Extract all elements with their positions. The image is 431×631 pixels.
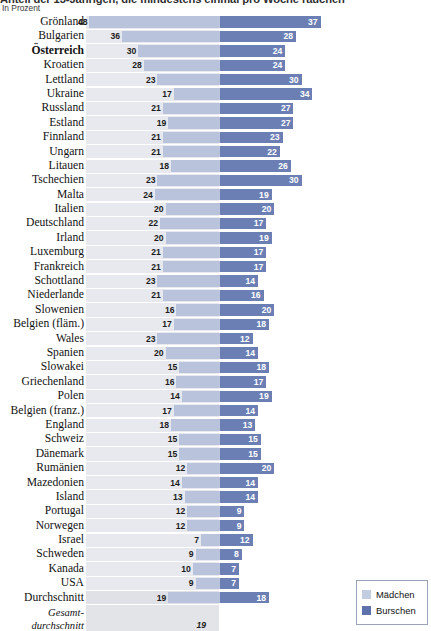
country-label: Ukraine — [0, 87, 84, 101]
value-maedchen: 14 — [168, 476, 180, 490]
chart-row: Niederlande2116 — [0, 288, 431, 302]
chart-row: Griechenland1617 — [0, 375, 431, 389]
bar-maedchen — [193, 563, 220, 574]
value-maedchen: 15 — [165, 432, 177, 446]
value-burschen: 16 — [249, 288, 261, 302]
value-maedchen: 16 — [162, 303, 174, 317]
chart-row: Norwegen129 — [0, 519, 431, 533]
chart-row: Kanada107 — [0, 562, 431, 576]
chart-row: Slowenien1620 — [0, 303, 431, 317]
value-burschen: 37 — [306, 15, 318, 29]
country-label: Kroatien — [0, 58, 84, 72]
country-label: Russland — [0, 101, 84, 115]
value-maedchen: 12 — [173, 461, 185, 475]
country-label: Spanien — [0, 346, 84, 360]
country-label: Schweden — [0, 547, 84, 561]
value-maedchen: 19 — [154, 591, 166, 605]
value-burschen: 14 — [243, 274, 255, 288]
bar-maedchen — [163, 247, 220, 258]
value-maedchen: 12 — [173, 519, 185, 533]
country-label: Niederlande — [0, 288, 84, 302]
chart-title: Anteil der 13-Jährigen, die mindestens e… — [0, 0, 431, 6]
country-label: Dänemark — [0, 447, 84, 461]
chart-row: Schweiz1515 — [0, 432, 431, 446]
value-burschen: 9 — [229, 519, 241, 533]
chart-row: Irland2019 — [0, 231, 431, 245]
chart-row: Polen1419 — [0, 389, 431, 403]
value-burschen: 12 — [238, 533, 250, 547]
country-label: Slowakei — [0, 360, 84, 374]
value-burschen: 27 — [278, 101, 290, 115]
bar-maedchen — [187, 463, 220, 474]
bar-maedchen — [168, 592, 220, 603]
country-label: Gesamt-durchschnitt — [0, 606, 84, 631]
value-burschen: 23 — [268, 130, 280, 144]
chart-row: Litauen1826 — [0, 159, 431, 173]
value-maedchen: 23 — [143, 274, 155, 288]
legend-swatch-burschen — [362, 606, 371, 615]
value-burschen: 17 — [251, 375, 263, 389]
value-burschen: 30 — [287, 73, 299, 87]
country-label: England — [0, 418, 84, 432]
bar-maedchen — [163, 261, 220, 272]
value-burschen: 20 — [259, 202, 271, 216]
chart-row: Finnland2123 — [0, 130, 431, 144]
chart-row: Italien2020 — [0, 202, 431, 216]
country-label: Wales — [0, 332, 84, 346]
value-maedchen: 28 — [130, 58, 142, 72]
value-burschen: 19 — [257, 188, 269, 202]
value-maedchen: 23 — [143, 332, 155, 346]
bar-maedchen — [171, 160, 220, 171]
value-burschen: 17 — [251, 260, 263, 274]
bar-maedchen — [166, 232, 220, 243]
value-burschen: 14 — [243, 476, 255, 490]
chart-row: Malta2419 — [0, 188, 431, 202]
value-burschen: 14 — [243, 404, 255, 418]
value-burschen: 14 — [243, 346, 255, 360]
chart-row: Portugal129 — [0, 504, 431, 518]
legend-item-burschen: Burschen — [362, 602, 423, 618]
value-maedchen: 21 — [149, 130, 161, 144]
country-label: Ungarn — [0, 145, 84, 159]
bar-maedchen — [179, 434, 220, 445]
country-label: Estland — [0, 116, 84, 130]
country-label: Mazedonien — [0, 476, 84, 490]
bar-maedchen — [157, 275, 220, 286]
value-maedchen: 36 — [108, 29, 120, 43]
country-label: USA — [0, 576, 84, 590]
value-maedchen: 17 — [160, 404, 172, 418]
chart-row: Belgien (fläm.)1718 — [0, 317, 431, 331]
bar-maedchen — [138, 45, 220, 56]
chart-row: Schweden98 — [0, 547, 431, 561]
country-label: Polen — [0, 389, 84, 403]
bar-maedchen — [182, 391, 220, 402]
value-maedchen: 12 — [173, 504, 185, 518]
country-label: Finnland — [0, 130, 84, 144]
country-label: Slowenien — [0, 303, 84, 317]
value-burschen: 28 — [281, 29, 293, 43]
bar-maedchen — [179, 362, 220, 373]
country-label: Rumänien — [0, 461, 84, 475]
country-label: Luxemburg — [0, 245, 84, 259]
chart-row: Wales2312 — [0, 332, 431, 346]
value-maedchen: 23 — [143, 173, 155, 187]
bar-maedchen — [89, 16, 220, 27]
chart-row: Ukraine1734 — [0, 87, 431, 101]
value-maedchen: 15 — [165, 447, 177, 461]
value-burschen: 19 — [257, 389, 269, 403]
value-maedchen: 10 — [179, 562, 191, 576]
country-label: Litauen — [0, 159, 84, 173]
value-burschen: 15 — [246, 447, 258, 461]
chart-title-clip: Anteil der 13-Jährigen, die mindestens e… — [0, 0, 431, 7]
value-maedchen: 21 — [149, 101, 161, 115]
chart-row: Belgien (franz.)1714 — [0, 404, 431, 418]
bar-maedchen — [166, 347, 220, 358]
value-maedchen: 21 — [149, 260, 161, 274]
chart-legend: Mädchen Burschen — [356, 580, 428, 625]
country-label: Island — [0, 490, 84, 504]
value-maedchen: 48 — [75, 15, 87, 29]
chart-row: Tschechien2330 — [0, 173, 431, 187]
country-label: Italien — [0, 202, 84, 216]
country-label: Portugal — [0, 504, 84, 518]
bar-maedchen — [171, 419, 220, 430]
